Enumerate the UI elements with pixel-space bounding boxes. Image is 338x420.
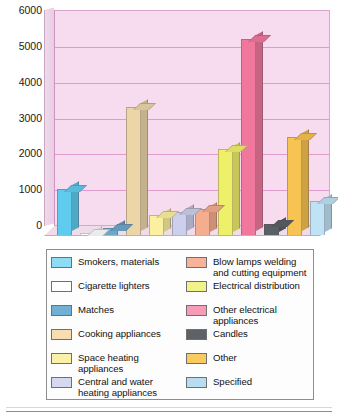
legend-item-right-2: Other electrical appliances (186, 303, 313, 324)
y-axis-tick-3000: 3000 (2, 113, 42, 123)
bar-face (126, 107, 142, 235)
legend-label: Other (213, 351, 237, 363)
legend-swatch-icon (51, 353, 72, 364)
legend-item-right-0: Blow lamps welding and cutting equipment (186, 255, 313, 276)
bar-top (64, 185, 87, 192)
legend-label: Cigarette lighters (78, 279, 150, 291)
y-axis-tick-labels: 6000500040003000200010000 (0, 0, 42, 248)
legend-item-left-4: Space heating appliances (51, 351, 180, 372)
bar-side (302, 130, 309, 232)
legend-item-right-4: Other (186, 351, 313, 372)
bar-3 (126, 107, 142, 235)
legend-swatch-icon (186, 257, 207, 268)
bar-9 (264, 224, 280, 235)
legend-item-left-0: Smokers, materials (51, 255, 180, 276)
y-axis-tick-6000: 6000 (2, 5, 42, 15)
bar-4 (149, 215, 165, 235)
y-axis-tick-5000: 5000 (2, 41, 42, 51)
bar-face (241, 39, 257, 235)
chart-figure: 6000500040003000200010000 Smokers, mater… (0, 0, 338, 420)
bar-1 (80, 233, 96, 235)
legend-swatch-icon (186, 281, 207, 292)
bar-0 (57, 189, 73, 235)
legend-column-left: Smokers, materialsCigarette lightersMatc… (47, 250, 180, 399)
bar-face (195, 209, 211, 235)
legend-item-right-1: Electrical distribution (186, 279, 313, 300)
legend-item-right-3: Candles (186, 327, 313, 348)
legend-label: Specified (213, 375, 252, 387)
legend-label: Candles (213, 327, 248, 339)
bar-top (317, 197, 338, 204)
legend-swatch-icon (186, 305, 207, 316)
bar-top (133, 103, 156, 110)
legend-item-right-5: Specified (186, 375, 313, 396)
legend-column-right: Blow lamps welding and cutting equipment… (180, 250, 313, 399)
bar-11 (310, 201, 326, 235)
legend-swatch-icon (51, 329, 72, 340)
bar-8 (241, 39, 257, 235)
bar-side (233, 142, 240, 231)
bar-series (54, 20, 330, 235)
legend-label: Smokers, materials (78, 255, 159, 267)
legend-swatch-icon (186, 377, 207, 388)
legend-swatch-icon (51, 257, 72, 268)
bar-face (310, 201, 326, 235)
bar-side (256, 32, 263, 232)
bar-top (248, 35, 271, 42)
legend-swatch-icon (186, 329, 207, 340)
legend-label: Space heating appliances (78, 351, 180, 374)
bar-face (149, 215, 165, 235)
bar-6 (195, 209, 211, 235)
legend-item-left-1: Cigarette lighters (51, 279, 180, 300)
bar-side (141, 99, 148, 231)
legend-item-left-2: Matches (51, 303, 180, 324)
plot-left-wall (44, 8, 54, 226)
legend-item-left-3: Cooking appliances (51, 327, 180, 348)
bar-top (294, 133, 317, 140)
y-axis-tick-2000: 2000 (2, 148, 42, 158)
footer-divider (6, 411, 332, 412)
legend-swatch-icon (51, 377, 72, 388)
bar-face (218, 149, 234, 235)
chart-legend: Smokers, materialsCigarette lightersMatc… (46, 249, 314, 400)
legend-swatch-icon (186, 353, 207, 364)
legend-item-left-5: Central and water heating appliances (51, 375, 180, 396)
legend-label: Electrical distribution (213, 279, 300, 291)
legend-label: Central and water heating appliances (78, 375, 180, 398)
chart-plot-region: 6000500040003000200010000 (0, 0, 338, 248)
y-axis-tick-1000: 1000 (2, 184, 42, 194)
plot-3d-wrapper (44, 10, 330, 236)
legend-label: Matches (78, 303, 114, 315)
footer-divider-light (6, 407, 332, 408)
legend-label: Cooking appliances (78, 327, 161, 339)
y-axis-tick-4000: 4000 (2, 77, 42, 87)
bar-7 (218, 149, 234, 235)
legend-swatch-icon (51, 281, 72, 292)
legend-label: Other electrical appliances (213, 303, 313, 326)
legend-swatch-icon (51, 305, 72, 316)
y-axis-tick-0: 0 (2, 220, 42, 230)
bar-face (57, 189, 73, 235)
legend-label: Blow lamps welding and cutting equipment (213, 255, 313, 278)
